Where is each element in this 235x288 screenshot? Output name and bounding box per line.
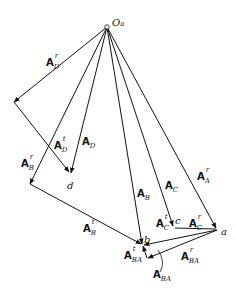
label-AD: AD <box>82 137 95 147</box>
point-c-label: c <box>175 215 181 226</box>
acceleration-polygon-drawing <box>0 0 235 288</box>
vector-ADr <box>14 27 107 102</box>
label-ABAt: AtBA <box>124 251 142 261</box>
point-b-label: b <box>144 234 150 245</box>
point-a-label: a <box>221 226 227 237</box>
vector-ABAt <box>143 246 147 258</box>
vector-AD <box>71 27 107 173</box>
label-ABt: AtB <box>83 224 96 234</box>
origin-label: Oa <box>112 17 124 28</box>
origin-point <box>105 25 109 29</box>
vector-ABA <box>144 230 217 245</box>
label-AAr: ArA <box>197 172 210 182</box>
label-ADr: ArD <box>46 58 59 68</box>
label-ABr: ArB <box>21 159 34 169</box>
label-AC: AC <box>165 181 178 191</box>
point-d-label: d <box>67 180 73 191</box>
label-ADt: AtD <box>54 141 67 151</box>
vector-ABt <box>30 184 141 244</box>
label-AB: AB <box>137 189 150 199</box>
label-ACr: ArC <box>189 219 202 229</box>
label-ABA: ABA <box>153 270 171 280</box>
label-ACt: AtC <box>156 219 169 229</box>
label-ABAr: ArBA <box>181 252 199 262</box>
vector-ABr <box>30 27 107 184</box>
